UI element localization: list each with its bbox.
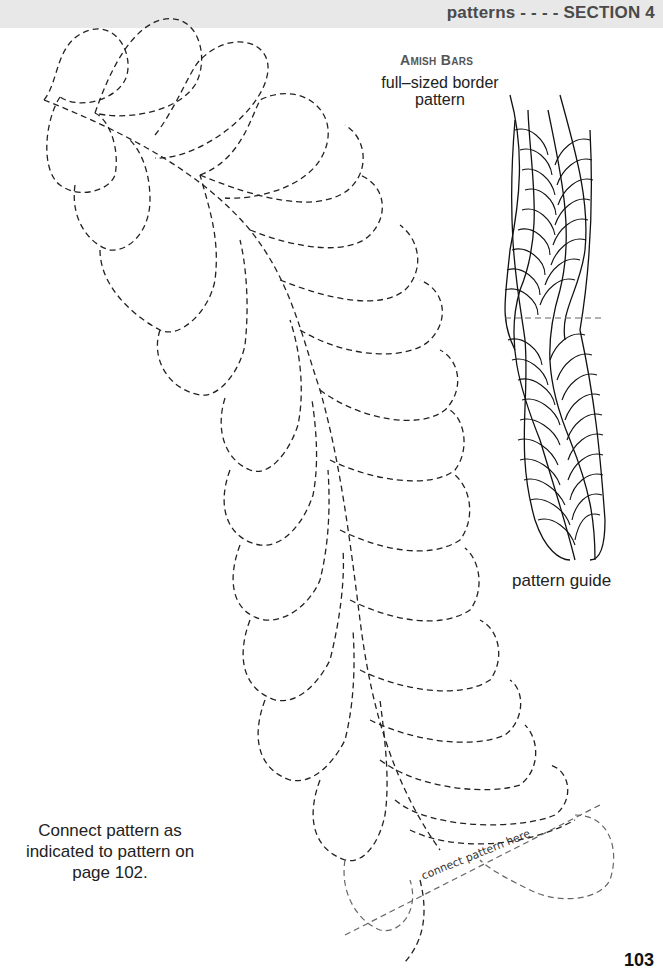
connect-instruction-note: Connect pattern as indicated to pattern … [20, 820, 200, 883]
page-number: 103 [624, 950, 654, 970]
pattern-guide-label: pattern guide [512, 571, 611, 591]
